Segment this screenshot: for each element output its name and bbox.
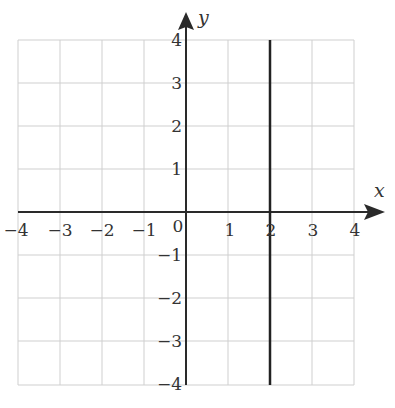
x-tick: 2 [266,220,277,240]
x-tick: −2 [89,220,114,240]
x-tick: 1 [225,220,236,240]
x-tick: −4 [3,220,28,240]
y-tick: −4 [157,374,182,394]
x-tick: −1 [131,220,156,240]
y-tick: −2 [157,288,182,308]
y-tick: 1 [171,159,182,179]
y-axis-label: y [197,6,209,28]
origin-label: 0 [173,216,184,236]
x-tick: −3 [47,220,72,240]
coordinate-grid: y x −4 −3 −2 −1 0 1 2 3 4 4 3 2 1 −1 −2 … [0,0,395,408]
x-axis [18,204,385,220]
y-tick: −1 [157,245,182,265]
y-tick: −3 [157,331,182,351]
y-tick: 4 [171,30,182,50]
x-tick-labels: −4 −3 −2 −1 0 1 2 3 4 [3,216,360,240]
x-axis-label: x [374,179,385,201]
y-tick: 2 [171,116,182,136]
y-axis [178,12,194,385]
y-tick: 3 [171,73,182,93]
x-tick: 4 [350,220,361,240]
x-tick: 3 [308,220,319,240]
